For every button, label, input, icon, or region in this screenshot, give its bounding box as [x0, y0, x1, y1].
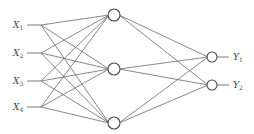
input-label: X1 [12, 20, 23, 31]
connection-edge [41, 107, 109, 123]
connection-edge [119, 69, 208, 85]
output-lead-lines [217, 57, 229, 85]
connection-edge [41, 25, 109, 123]
connection-edge [119, 15, 208, 57]
input-label: X2 [12, 48, 23, 59]
neural-network-diagram: X1X2X3X4 Y1Y2 [0, 0, 254, 134]
output-labels: Y1Y2 [233, 52, 243, 91]
connection-edge [41, 81, 109, 123]
hidden-output-connections [119, 15, 208, 123]
connection-edge [41, 15, 109, 107]
hidden-node [108, 117, 120, 129]
connection-edge [119, 15, 208, 85]
input-label: X4 [12, 102, 23, 113]
input-hidden-connections [41, 15, 109, 123]
input-lead-lines [27, 25, 41, 107]
connection-edge [119, 85, 208, 123]
output-layer [207, 52, 217, 90]
output-node [207, 80, 217, 90]
input-labels: X1X2X3X4 [12, 20, 23, 113]
connection-edge [41, 15, 109, 25]
output-node [207, 52, 217, 62]
hidden-node [108, 9, 120, 21]
hidden-layer [108, 9, 120, 129]
hidden-node [108, 63, 120, 75]
output-label: Y2 [233, 80, 243, 91]
output-label: Y1 [233, 52, 243, 63]
input-label: X3 [12, 76, 23, 87]
